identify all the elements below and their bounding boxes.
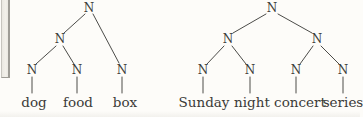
right-tree-inner-left-node: N bbox=[223, 33, 234, 45]
edge-innerright-leafconcert bbox=[300, 46, 313, 64]
edge-root-innerright bbox=[278, 14, 312, 33]
edge-innerright-leafseries bbox=[321, 46, 339, 64]
leaf-word-sunday: Sunday bbox=[179, 96, 230, 110]
right-tree-leaf-node-series: N bbox=[338, 64, 349, 76]
right-tree-leaf-node-concert: N bbox=[291, 64, 302, 76]
edge-innerleft-leafnight bbox=[232, 46, 246, 64]
leaf-word-dog: dog bbox=[21, 96, 46, 110]
leaf-word-food: food bbox=[63, 96, 93, 110]
leaf-word-concert: concert bbox=[274, 96, 326, 110]
right-tree-leaf-node-night: N bbox=[245, 64, 256, 76]
leaf-word-night: night bbox=[234, 96, 270, 110]
edge-inner-leaffood bbox=[63, 46, 74, 64]
edge-root-leafbox bbox=[93, 14, 119, 63]
left-tree-leaf-node-food: N bbox=[72, 64, 83, 76]
right-tree-root-node: N bbox=[267, 2, 278, 14]
edge-innerleft-leafsunday bbox=[207, 46, 224, 64]
left-tree-leaf-node-box: N bbox=[117, 64, 128, 76]
edge-root-inner bbox=[64, 14, 85, 33]
left-tree-leaf-node-dog: N bbox=[27, 64, 38, 76]
right-tree-leaf-node-sunday: N bbox=[198, 64, 209, 76]
left-tree-root-node: N bbox=[84, 2, 95, 14]
leaf-word-series: series bbox=[323, 96, 363, 110]
edge-root-innerleft bbox=[233, 14, 266, 33]
right-tree-inner-right-node: N bbox=[312, 33, 323, 45]
leaf-word-box: box bbox=[113, 96, 137, 110]
left-tree-inner-node: N bbox=[55, 33, 66, 45]
edge-inner-leafdog bbox=[36, 46, 56, 64]
